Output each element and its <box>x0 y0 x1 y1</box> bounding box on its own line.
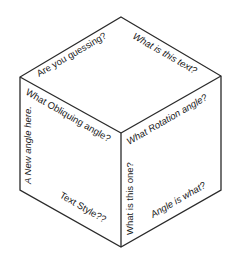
cube-edges <box>20 17 221 247</box>
top-face-label-left: Are you guessing? <box>35 30 109 79</box>
cube-inner-edge-right <box>121 76 221 133</box>
isometric-cube-diagram: Are you guessing? What is this text? Wha… <box>0 0 241 265</box>
right-face-label-vertical: What is this one? <box>124 162 135 235</box>
left-face-label-vertical: A New angle here. <box>22 106 33 185</box>
cube-inner-edge-left <box>20 77 121 133</box>
left-face: What Obliquing angle? A New angle here. … <box>22 86 113 224</box>
left-face-label-bottom: Text Style?? <box>58 189 108 224</box>
right-face: What Rotation angle? What is this one? A… <box>124 91 210 235</box>
left-face-label-top: What Obliquing angle? <box>24 86 113 144</box>
top-face-label-right: What is this text? <box>131 30 200 76</box>
top-face: Are you guessing? What is this text? <box>35 30 200 79</box>
right-face-label-top: What Rotation angle? <box>125 91 210 147</box>
